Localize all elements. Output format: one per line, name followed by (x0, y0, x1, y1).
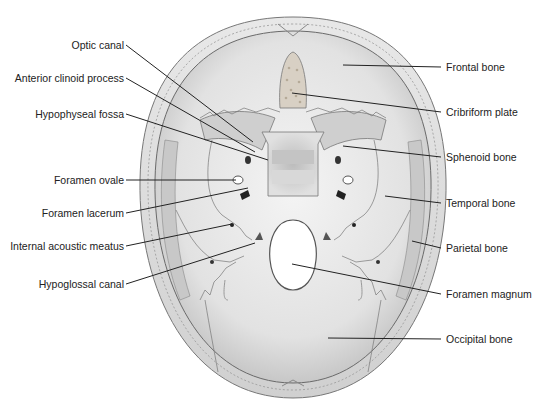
label-foramen-lacerum: Foramen lacerum (42, 207, 124, 219)
foramen-magnum-hole (270, 220, 317, 290)
label-occipital-bone: Occipital bone (446, 333, 513, 345)
optic-canal-hole (245, 156, 251, 164)
label-internal-acoustic-meatus: Internal acoustic meatus (10, 240, 124, 252)
label-foramen-magnum: Foramen magnum (446, 288, 532, 300)
label-sphenoid-bone: Sphenoid bone (446, 151, 517, 163)
label-hypoglossal-canal: Hypoglossal canal (39, 278, 124, 290)
label-foramen-ovale: Foramen ovale (54, 174, 124, 186)
cranial-floor-diagram: Optic canal Anterior clinoid process Hyp… (0, 0, 536, 406)
label-optic-canal: Optic canal (71, 39, 124, 51)
label-parietal-bone: Parietal bone (446, 242, 508, 254)
label-hypophyseal-fossa: Hypophyseal fossa (35, 108, 124, 120)
label-temporal-bone: Temporal bone (446, 197, 515, 209)
label-cribriform-plate: Cribriform plate (446, 106, 518, 118)
label-anterior-clinoid-process: Anterior clinoid process (15, 72, 124, 84)
internal-acoustic-meatus-hole (230, 223, 234, 227)
label-frontal-bone: Frontal bone (446, 61, 505, 73)
sella-turcica (262, 132, 324, 196)
